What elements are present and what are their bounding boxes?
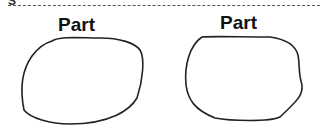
part-shape-left bbox=[22, 38, 143, 124]
part-shape-right bbox=[186, 37, 303, 121]
part-shapes bbox=[0, 0, 320, 137]
